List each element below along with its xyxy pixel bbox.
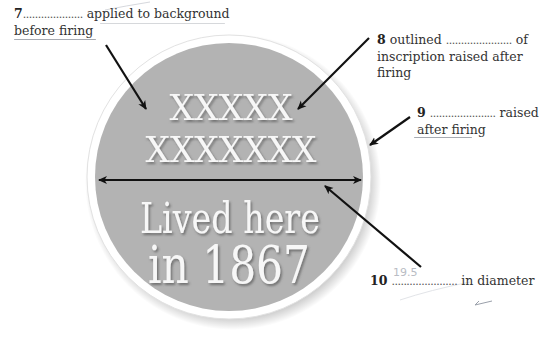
label-7-text: applied to background (87, 6, 230, 21)
label-8-text-line2: inscription raised after (377, 49, 523, 64)
label-8-number: 8 (377, 32, 386, 47)
plaque-diagram: XXXXX XXXXXXX Lived here in 1867 7......… (0, 0, 556, 343)
label-9-text-line2: after firing (417, 122, 486, 137)
label-9-number: 9 (417, 105, 426, 120)
label-8: 8 outlined ...................... of ins… (377, 32, 528, 81)
label-9: 9 ...................... raised after fi… (417, 105, 539, 138)
label-8-blank: ...................... (446, 34, 512, 47)
label-8-text-line3: firing (377, 65, 411, 80)
inscription-line-4: in 1867 (148, 235, 310, 295)
label-8-text-before: outlined (390, 32, 442, 47)
label-7-number: 7 (14, 6, 23, 21)
pen-underline (14, 39, 96, 40)
pen-underline (414, 137, 472, 138)
inscription-line-2: XXXXXXX (146, 130, 317, 170)
label-10-number: 10 (370, 273, 387, 288)
label-7-text-line2: before firing (14, 23, 93, 38)
label-8-text-after: of (516, 32, 528, 47)
label-9-blank: ...................... (430, 107, 496, 120)
label-7-blank: .................... (23, 8, 83, 21)
label-9-text-after: raised (500, 105, 539, 120)
pen-underline (100, 23, 225, 24)
inscription-line-1: XXXXX (170, 88, 293, 128)
arrow-9 (370, 117, 410, 145)
label-10-text-after: in diameter (461, 273, 534, 288)
handwritten-answer-10: 19.5 (393, 266, 418, 279)
